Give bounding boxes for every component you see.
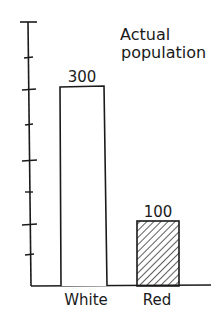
bar-white bbox=[60, 86, 107, 286]
y-axis bbox=[20, 22, 37, 286]
annotation-line-2: population bbox=[121, 43, 206, 62]
bar-red-value-label: 100 bbox=[144, 203, 173, 221]
annotation-line-1: Actual bbox=[120, 25, 170, 44]
category-label-white: White bbox=[64, 291, 108, 309]
bar-red bbox=[137, 221, 179, 286]
x-axis bbox=[31, 285, 211, 286]
bar-chart: 300 100 White Red Actual population bbox=[0, 0, 216, 315]
bar-white-value-label: 300 bbox=[68, 68, 97, 86]
category-label-red: Red bbox=[143, 291, 172, 309]
